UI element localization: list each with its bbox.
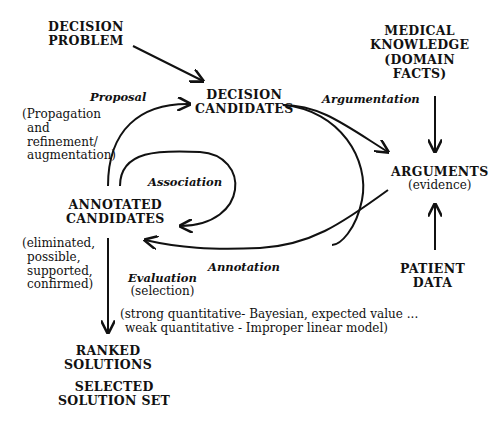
node-decision-problem: DECISION PROBLEM [48, 20, 124, 49]
label-association: Association [148, 176, 222, 189]
label-annotation: Annotation [208, 261, 280, 274]
node-text: DECISION [48, 20, 124, 34]
node-text: SOLUTIONS [64, 358, 152, 372]
node-decision-candidates: DECISION CANDIDATES [195, 88, 293, 117]
node-ranked-solutions: RANKED SOLUTIONS [64, 344, 152, 373]
note-line: confirmed) [22, 278, 95, 292]
note-line: (Propagation [22, 108, 116, 122]
node-patient-data: PATIENT DATA [400, 262, 465, 291]
note-line: (strong quantitative- Bayesian, expected… [120, 308, 418, 322]
note-line: possible, [22, 251, 95, 265]
arrow-proposal [108, 104, 190, 186]
node-text: ARGUMENTS [391, 165, 488, 179]
note-line: (eliminated, [22, 237, 95, 251]
node-text: DECISION [195, 88, 293, 102]
arrow-argumentation [283, 105, 388, 152]
note-proposal: (Propagation and refinement/ augmentatio… [22, 108, 116, 163]
node-text: KNOWLEDGE [370, 38, 469, 52]
node-text: MEDICAL [370, 24, 469, 38]
node-text: SELECTED [58, 380, 170, 394]
node-text: PROBLEM [48, 34, 124, 48]
label-evaluation: Evaluation (selection) [128, 272, 197, 299]
node-text: DATA [400, 276, 465, 290]
node-arguments: ARGUMENTS (evidence) [391, 165, 488, 193]
node-text: SOLUTION SET [58, 394, 170, 408]
node-selected-solution-set: SELECTED SOLUTION SET [58, 380, 170, 409]
node-text: ANNOTATED [66, 198, 164, 212]
note-line: supported, [22, 265, 95, 279]
node-annotated-candidates: ANNOTATED CANDIDATES [66, 198, 164, 227]
node-medical-knowledge: MEDICAL KNOWLEDGE (DOMAIN FACTS) [370, 24, 469, 82]
note-status: (eliminated, possible, supported, confir… [22, 237, 95, 292]
note-line: and [22, 122, 116, 136]
node-text: FACTS) [370, 67, 469, 81]
node-text: CANDIDATES [66, 212, 164, 226]
arrow-problem-to-candidates [133, 46, 203, 81]
note-line: refinement/ [22, 136, 116, 150]
node-subtext: (evidence) [391, 179, 488, 193]
node-text: (DOMAIN [370, 53, 469, 67]
arrow-annotation [145, 190, 388, 249]
note-line: augmentation) [22, 149, 116, 163]
node-text: PATIENT [400, 262, 465, 276]
node-text: CANDIDATES [195, 102, 293, 116]
note-line: weak quantitative - Improper linear mode… [120, 322, 418, 336]
loop-curve [283, 105, 363, 245]
node-text: RANKED [64, 344, 152, 358]
label-proposal: Proposal [90, 91, 146, 104]
note-methods: (strong quantitative- Bayesian, expected… [120, 308, 418, 336]
label-argumentation: Argumentation [322, 93, 420, 106]
edge-label-subtext: (selection) [128, 285, 197, 299]
